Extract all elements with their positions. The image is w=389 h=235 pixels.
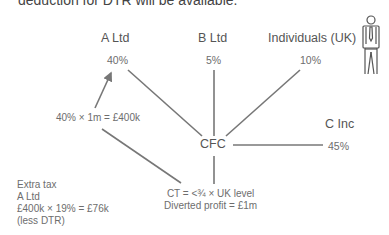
node-b-ltd: B Ltd: [198, 32, 227, 45]
cfc-ct-rate: CT = <¾ × UK level: [164, 188, 257, 200]
node-individuals: Individuals (UK): [268, 32, 356, 45]
cfc-diverted-profit: Diverted profit = £1m: [164, 200, 257, 212]
extra-tax-company: A Ltd: [17, 191, 109, 203]
node-cfc: CFC: [200, 138, 226, 151]
line-a-ltd-cfc: [128, 70, 202, 136]
line-individuals-cfc: [226, 70, 300, 136]
extra-tax-title: Extra tax: [17, 179, 109, 191]
pct-c-inc: 45%: [328, 141, 349, 152]
pct-b-ltd: 5%: [206, 55, 221, 66]
extra-tax-less-dtr: (less DTR): [17, 215, 109, 227]
person-icon: [360, 14, 382, 76]
cfc-details: CT = <¾ × UK level Diverted profit = £1m: [164, 188, 257, 212]
node-a-ltd: A Ltd: [101, 32, 130, 45]
arrow-to-a-ltd: [95, 73, 111, 108]
extra-tax-note: Extra tax A Ltd £400k × 19% = £76k (less…: [17, 179, 109, 227]
apportion-calculation: 40% × 1m = £400k: [56, 113, 140, 123]
line-apportion-to-ct: [102, 129, 181, 183]
pct-individuals: 10%: [300, 55, 321, 66]
pct-a-ltd: 40%: [107, 55, 128, 66]
node-c-inc: C Inc: [325, 118, 354, 131]
extra-tax-calc: £400k × 19% = £76k: [17, 203, 109, 215]
